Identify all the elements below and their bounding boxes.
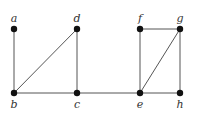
node-label-e: e <box>137 98 144 111</box>
edge-b-d <box>14 29 77 93</box>
edge-e-g <box>140 29 180 93</box>
node-label-f: f <box>137 12 144 25</box>
graph-diagram: abcdefgh <box>0 0 211 113</box>
node-label-a: a <box>11 12 18 25</box>
node-e <box>137 90 143 96</box>
node-g <box>177 26 183 32</box>
edges-group <box>14 29 180 93</box>
node-f <box>137 26 143 32</box>
node-label-h: h <box>176 98 183 111</box>
node-c <box>74 90 80 96</box>
node-label-d: d <box>73 12 80 25</box>
node-d <box>74 26 80 32</box>
node-label-b: b <box>10 98 17 111</box>
node-a <box>11 26 17 32</box>
node-label-g: g <box>176 12 183 25</box>
node-label-c: c <box>74 98 80 111</box>
nodes-group <box>11 26 183 96</box>
node-h <box>177 90 183 96</box>
node-b <box>11 90 17 96</box>
labels-group: abcdefgh <box>10 12 183 111</box>
